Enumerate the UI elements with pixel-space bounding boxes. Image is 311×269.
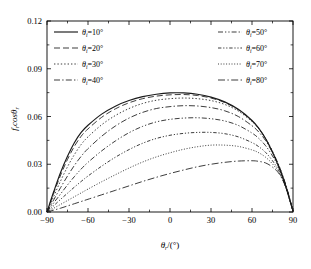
chart-figure: −90−60−300306090 0.000.030.060.090.12 θi… — [0, 0, 311, 269]
y-tick-label: 0.12 — [27, 16, 42, 26]
y-tick-label: 0.09 — [27, 64, 42, 74]
x-tick-label: 0 — [168, 215, 172, 225]
x-tick-label: −90 — [40, 215, 53, 225]
x-tick-label: 30 — [207, 215, 216, 225]
y-tick-label: 0.03 — [27, 159, 42, 169]
y-tick-label: 0.06 — [27, 112, 42, 122]
x-tick-label: 60 — [248, 215, 257, 225]
legend-label: θi=40° — [82, 76, 103, 86]
x-tick-label: 90 — [289, 215, 298, 225]
x-tick-label: −30 — [122, 215, 135, 225]
svg-text:θr/(°): θr/(°) — [161, 240, 180, 251]
legend-label: θi=20° — [82, 44, 103, 54]
x-axis-label-rest: /(°) — [167, 240, 179, 250]
legend-label: θi=50° — [246, 28, 267, 38]
x-axis-label: θr/(°) — [161, 240, 180, 251]
legend-label: θi=60° — [246, 44, 267, 54]
x-tick-label: −60 — [81, 215, 94, 225]
legend-label: θi=30° — [82, 60, 103, 70]
y-tick-label: 0.00 — [27, 207, 42, 217]
legend-label: θi=10° — [82, 28, 103, 38]
legend-label: θi=80° — [246, 76, 267, 86]
y-axis-label-cos: cosθ — [9, 109, 19, 126]
legend-label: θi=70° — [246, 60, 267, 70]
